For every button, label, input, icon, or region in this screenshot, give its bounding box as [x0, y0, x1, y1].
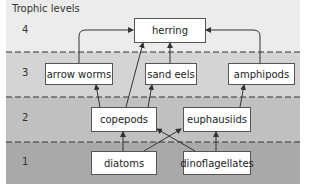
node-sand-eels: sand eels	[145, 63, 197, 85]
node-herring: herring	[134, 18, 206, 43]
edge-arrowworms-herring	[79, 30, 133, 63]
node-arrow-worms: arrow worms	[45, 63, 113, 85]
node-copepods: copepods	[91, 107, 157, 132]
edge-amphipods-herring	[206, 30, 260, 63]
node-euphausiids: euphausiids	[183, 107, 251, 132]
node-diatoms: diatoms	[91, 151, 157, 175]
edge-copepods-sandeels	[148, 85, 152, 107]
edge-copepods-arrowworms	[96, 85, 100, 107]
node-amphipods: amphipods	[228, 63, 295, 85]
edge-euphausiids-amphipods	[240, 85, 244, 107]
node-dinoflagellates: dinoflagellates	[183, 151, 251, 175]
